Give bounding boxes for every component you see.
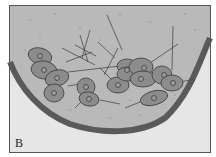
panel-label: B	[15, 137, 23, 149]
diagram-figure	[0, 0, 216, 157]
